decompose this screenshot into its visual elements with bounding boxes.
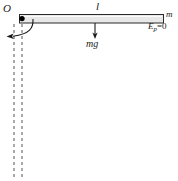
weight-label: mg xyxy=(86,39,98,49)
length-label: l xyxy=(96,1,99,12)
pivot-dot-icon xyxy=(19,16,24,21)
rotation-arrow-head-icon xyxy=(7,33,14,39)
rod-body xyxy=(20,15,164,24)
potential-energy-reference-label: Ep=0 xyxy=(148,22,167,33)
potential-energy-value: =0 xyxy=(157,21,167,31)
physics-diagram-rod-pivot: O l m Ep=0 mg xyxy=(0,0,178,181)
pivot-label: O xyxy=(3,3,11,14)
mass-label: m xyxy=(166,10,173,19)
